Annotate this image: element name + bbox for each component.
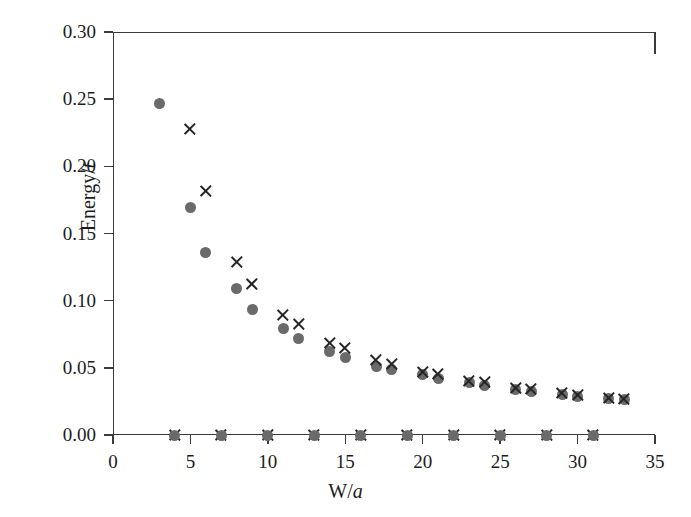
x-tick-mark <box>345 435 347 444</box>
y-tick-mark <box>104 31 113 33</box>
y-tick-mark <box>104 166 113 168</box>
plot-right-axis-stub <box>654 32 656 54</box>
x-tick-label: 15 <box>315 452 375 471</box>
y-tick-mark <box>104 98 113 100</box>
y-tick-label: 0.00 <box>0 425 96 444</box>
y-tick-mark <box>104 233 113 235</box>
x-tick-label: 25 <box>470 452 530 471</box>
x-tick-mark <box>577 435 579 444</box>
y-axis-label: Energy/t <box>77 97 99 297</box>
x-axis-label: W/a <box>0 480 691 502</box>
x-tick-mark <box>267 435 269 444</box>
x-tick-mark <box>190 435 192 444</box>
plot-area <box>113 32 655 435</box>
x-tick-mark <box>499 435 501 444</box>
x-tick-label: 35 <box>625 452 685 471</box>
scatter-plot-figure: 0.000.050.100.150.200.250.30 05101520253… <box>0 0 691 517</box>
x-tick-label: 5 <box>160 452 220 471</box>
x-tick-label: 10 <box>238 452 298 471</box>
x-tick-label: 20 <box>393 452 453 471</box>
x-tick-label: 0 <box>83 452 143 471</box>
x-tick-label: 30 <box>548 452 608 471</box>
y-tick-label: 0.05 <box>0 358 96 377</box>
y-tick-mark <box>104 300 113 302</box>
y-tick-mark <box>104 367 113 369</box>
x-tick-mark <box>422 435 424 444</box>
x-tick-mark <box>112 435 114 444</box>
x-tick-mark <box>654 435 656 444</box>
y-tick-label: 0.30 <box>0 22 96 41</box>
